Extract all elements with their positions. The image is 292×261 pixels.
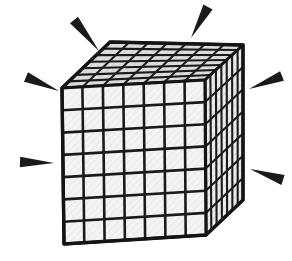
cube-diagram (0, 0, 292, 261)
cube-front-face (62, 80, 206, 244)
figure-container: Compressed cube of unit cubes A large cu… (0, 0, 292, 261)
